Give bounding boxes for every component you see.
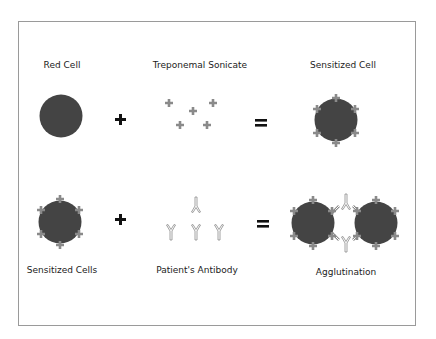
equals-operator-icon	[255, 119, 267, 127]
patient-antibody-icon	[167, 197, 224, 240]
sensitized-cell-icon	[313, 94, 359, 147]
sensitized-cells-icon	[37, 195, 83, 249]
red-cell-icon	[40, 95, 83, 138]
treponemal-antigen-icon	[165, 99, 217, 129]
equals-operator-icon	[257, 220, 269, 228]
plus-operator-icon	[115, 214, 126, 225]
agglutination-icon	[290, 194, 399, 252]
plus-operator-icon	[115, 114, 126, 125]
